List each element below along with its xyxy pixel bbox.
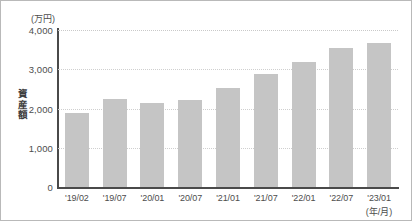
bar[interactable] (65, 113, 89, 187)
y-axis-tick-label: 3,000 (29, 64, 53, 75)
x-axis-tick-label: '21/01 (216, 193, 240, 203)
bar-slot (171, 30, 209, 187)
bar[interactable] (292, 62, 316, 187)
y-axis-title-char: 資 (17, 89, 29, 100)
bar[interactable] (254, 74, 278, 187)
bar[interactable] (367, 43, 391, 187)
bar-slot (96, 30, 134, 187)
x-axis-tick-label: '23/01 (367, 193, 391, 203)
x-axis-tick-label: '22/07 (330, 193, 354, 203)
bar-slot (134, 30, 172, 187)
bar[interactable] (178, 100, 202, 187)
x-axis-tick-label: '19/07 (103, 193, 127, 203)
x-axis-tick-label: '22/01 (292, 193, 316, 203)
bar-slot (247, 30, 285, 187)
x-axis-tick-label: '20/07 (178, 193, 202, 203)
y-axis-title-char: 額 (17, 110, 29, 121)
y-axis-title: 資 産 額 (17, 89, 29, 121)
x-axis-tick-label: '21/07 (254, 193, 278, 203)
x-axis-tick-label: '19/02 (65, 193, 89, 203)
bar-slot (322, 30, 360, 187)
bar-slot (285, 30, 323, 187)
x-axis-line (57, 187, 399, 189)
bar-slot (209, 30, 247, 187)
bar-slot (58, 30, 96, 187)
bar[interactable] (216, 88, 240, 187)
y-axis-tick-label: 4,000 (29, 25, 53, 36)
y-axis-unit-label: (万円) (31, 12, 55, 25)
y-axis-tick-label: 1,000 (29, 142, 53, 153)
y-axis-tick-label: 0 (48, 182, 53, 193)
bar[interactable] (329, 48, 353, 187)
x-axis-tick-label: '20/01 (141, 193, 165, 203)
bar-slot (360, 30, 398, 187)
plot-area: 01,0002,0003,0004,000 (58, 30, 398, 187)
bar[interactable] (103, 99, 127, 187)
x-axis-unit-label: (年/月) (366, 205, 393, 218)
y-axis-tick-label: 2,000 (29, 103, 53, 114)
chart-container: (万円) 資 産 額 01,0002,0003,0004,000 '19/02'… (0, 0, 412, 221)
bar[interactable] (140, 103, 164, 187)
